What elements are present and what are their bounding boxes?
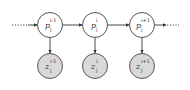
node-z-next: z i+1 j [130,54,155,79]
node-sup: i-1 [50,58,56,64]
node-p-curr: p i j [83,13,108,38]
node-p-next: p i+1 j [130,13,155,38]
node-sub: j [49,26,52,33]
node-z-curr: z i j [83,54,108,79]
node-z-prev: z i-1 j [38,54,63,79]
node-sub: j [95,26,98,33]
node-p-prev: p i-1 j [38,13,63,38]
node-sub: j [49,67,52,74]
chain-diagram: p i-1 j p i j p i+1 j z i-1 j z i j z i+… [0,0,190,90]
node-sub: j [95,67,98,74]
node-sup: i-1 [50,17,56,23]
node-sub: j [140,67,143,74]
node-sup: i+1 [141,17,150,23]
node-sup: i+1 [141,58,150,64]
node-sub: j [140,26,143,33]
